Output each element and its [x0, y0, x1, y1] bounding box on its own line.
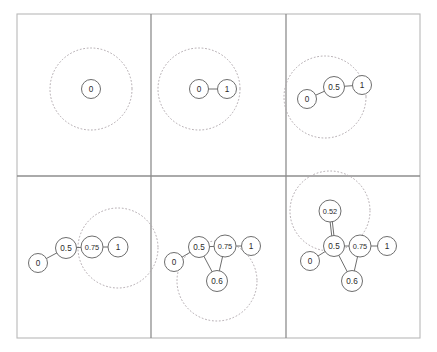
node-label-n06: 0.6	[211, 277, 223, 286]
edge-n05-n06	[339, 255, 348, 272]
node-n075[interactable]: 0.75	[81, 236, 103, 258]
node-n075[interactable]: 0.75	[214, 235, 236, 257]
edge-n05-n1	[344, 86, 353, 87]
node-n052[interactable]: 0.52	[319, 200, 341, 222]
figure-panel-grid: 00100.5100.50.75100.50.7510.600.50.7510.…	[0, 0, 437, 352]
edge-n075-n06	[219, 256, 222, 271]
node-n05[interactable]: 0.5	[189, 237, 210, 258]
node-label-n1: 1	[225, 85, 230, 94]
node-n06[interactable]: 0.6	[342, 271, 363, 292]
node-label-n0: 0	[197, 85, 202, 94]
node-n0[interactable]: 0	[301, 252, 320, 271]
node-n0[interactable]: 0	[298, 90, 317, 109]
panel-4: 00.50.751	[29, 208, 159, 288]
panel-5: 00.50.7510.6	[165, 235, 261, 321]
panel-1: 0	[50, 48, 132, 130]
node-n05[interactable]: 0.5	[324, 236, 345, 257]
edge-n0-n05	[182, 252, 191, 257]
node-n1[interactable]: 1	[242, 237, 261, 256]
node-n0[interactable]: 0	[165, 253, 184, 272]
edge-n0-n05	[315, 91, 325, 95]
node-n05[interactable]: 0.5	[324, 77, 345, 98]
node-label-n06: 0.6	[346, 277, 358, 286]
node-label-n0: 0	[172, 258, 177, 267]
node-label-n052: 0.52	[323, 207, 337, 216]
diagram-canvas: 00100.5100.50.75100.50.7510.600.50.7510.…	[0, 0, 437, 352]
edge-n05-n06	[204, 256, 213, 272]
edge-n052-n05	[332, 221, 334, 236]
node-n0[interactable]: 0	[82, 80, 101, 99]
node-n05[interactable]: 0.5	[56, 238, 77, 259]
node-label-n0: 0	[305, 95, 310, 104]
node-label-n075: 0.75	[353, 242, 367, 251]
node-label-n05: 0.5	[193, 243, 205, 252]
node-label-n0: 0	[36, 259, 41, 268]
edge-n052-n05	[330, 222, 332, 237]
node-label-n075: 0.75	[85, 243, 99, 252]
node-n1[interactable]: 1	[218, 80, 237, 99]
node-label-n1: 1	[116, 243, 121, 252]
node-label-n05: 0.5	[60, 244, 72, 253]
edge-n075-n06	[354, 256, 357, 271]
node-label-n1: 1	[385, 242, 390, 251]
panel-2: 01	[158, 48, 240, 130]
node-label-n0: 0	[308, 257, 313, 266]
dotted-ball-n05	[284, 56, 366, 138]
panels-group: 00100.5100.50.75100.50.7510.600.50.7510.…	[29, 48, 397, 321]
node-n1[interactable]: 1	[108, 237, 128, 257]
node-label-n0: 0	[89, 85, 94, 94]
node-n0[interactable]: 0	[29, 254, 48, 273]
node-n0[interactable]: 0	[190, 80, 209, 99]
node-label-n05: 0.5	[328, 242, 340, 251]
panel-3: 00.51	[284, 56, 372, 138]
node-n1[interactable]: 1	[378, 237, 397, 256]
node-label-n05: 0.5	[328, 83, 340, 92]
node-label-n1: 1	[360, 81, 365, 90]
node-label-n1: 1	[249, 242, 254, 251]
node-label-n075: 0.75	[218, 242, 232, 251]
node-n06[interactable]: 0.6	[207, 271, 228, 292]
node-n1[interactable]: 1	[353, 76, 372, 95]
edge-n0-n05	[318, 251, 326, 256]
edge-n0-n05	[46, 253, 57, 259]
node-n075[interactable]: 0.75	[349, 235, 371, 257]
panel-6: 00.50.7510.60.52	[290, 171, 397, 292]
